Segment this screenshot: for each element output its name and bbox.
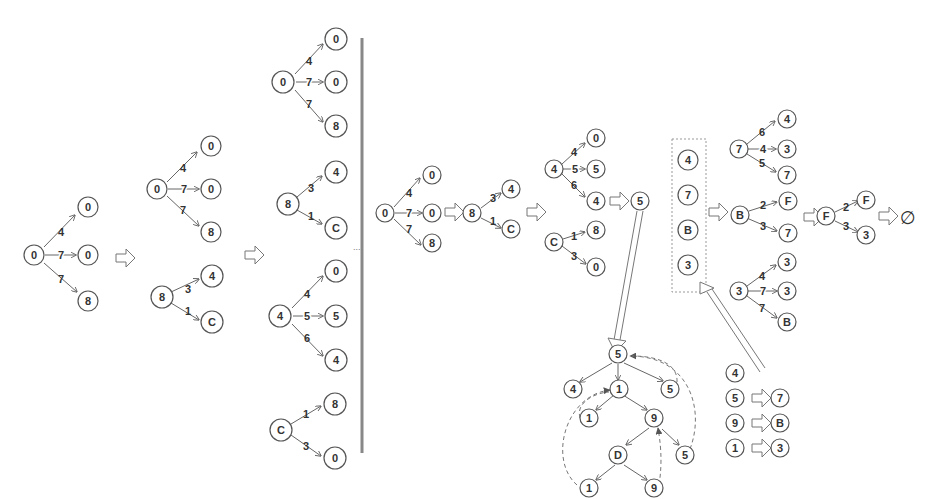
svg-text:7: 7 [736, 143, 742, 155]
svg-text:3: 3 [685, 259, 691, 271]
svg-text:8: 8 [429, 237, 435, 249]
node: 0 [24, 245, 44, 265]
svg-text:3: 3 [760, 220, 766, 232]
group-tree-4: 4 5 6 4 0 5 4 [545, 129, 605, 210]
edge-label: 3 [571, 250, 577, 262]
node: 0 [423, 204, 441, 222]
node: 0 [201, 179, 221, 199]
edge-label: 3 [308, 182, 314, 194]
box-node: B [678, 220, 698, 240]
svg-text:C: C [550, 236, 558, 248]
edge-label: 4 [58, 226, 65, 238]
result-node: 5 [631, 192, 649, 210]
svg-text:3: 3 [784, 285, 790, 297]
svg-text:0: 0 [333, 33, 339, 45]
edge-label: 7 [58, 249, 64, 261]
step-arrow-icon [709, 203, 728, 221]
svg-text:7: 7 [760, 285, 766, 297]
edge-label: 7 [406, 207, 412, 219]
edge-label: 4 [306, 55, 313, 67]
node: 8 [151, 286, 173, 308]
step-arrow-icon [245, 246, 264, 264]
node: 8 [324, 393, 346, 415]
node: 8 [78, 291, 98, 311]
node: C [545, 233, 563, 251]
svg-text:3: 3 [784, 256, 790, 268]
step-arrow-icon [116, 249, 135, 267]
node: 0 [325, 28, 347, 50]
svg-text:7: 7 [759, 302, 765, 314]
svg-text:0: 0 [154, 183, 160, 195]
svg-text:D: D [614, 449, 622, 461]
box-node: 7 [678, 185, 698, 205]
svg-text:4: 4 [277, 310, 284, 322]
svg-text:1: 1 [616, 383, 622, 395]
step-arrow-icon [610, 192, 629, 210]
edge-label: 6 [571, 179, 577, 191]
edge-label: 7 [58, 273, 64, 285]
svg-text:0: 0 [593, 261, 599, 273]
svg-text:7: 7 [785, 227, 791, 239]
edge-label: 4 [571, 146, 578, 158]
tree-step3-d: 1 3 C 8 0 [270, 393, 346, 469]
node: 4 [545, 160, 563, 178]
node: 0 [587, 258, 605, 276]
svg-text:4: 4 [333, 166, 340, 178]
svg-text:0: 0 [208, 140, 214, 152]
svg-text:C: C [208, 316, 216, 328]
node: C [325, 217, 347, 239]
mapping: 4 5 7 9 B 1 3 [726, 364, 789, 457]
node: 0 [325, 71, 347, 93]
svg-text:5: 5 [333, 310, 339, 322]
svg-text:4: 4 [685, 154, 692, 166]
node: 4 [325, 161, 347, 183]
svg-text:4: 4 [732, 367, 739, 379]
svg-text:F: F [823, 210, 830, 222]
svg-text:8: 8 [333, 120, 339, 132]
node: 4 [325, 349, 347, 371]
node: 0 [325, 260, 347, 282]
svg-text:4: 4 [333, 354, 340, 366]
svg-text:8: 8 [208, 226, 214, 238]
right-tree-3: 4 7 7 3 3 3 B [730, 253, 796, 331]
edge-label: 1 [490, 215, 496, 227]
svg-text:8: 8 [593, 224, 599, 236]
svg-text:4: 4 [551, 163, 558, 175]
svg-text:6: 6 [759, 126, 765, 138]
svg-text:0: 0 [85, 249, 91, 261]
svg-text:1: 1 [732, 442, 738, 454]
svg-text:0: 0 [333, 76, 339, 88]
svg-text:3: 3 [777, 442, 783, 454]
node: 4 [502, 180, 520, 198]
svg-text:B: B [783, 316, 791, 328]
node: 4 [201, 265, 223, 287]
svg-text:3: 3 [843, 220, 849, 232]
svg-text:C: C [277, 424, 285, 436]
edge-label: 5 [304, 310, 310, 322]
svg-text:5: 5 [593, 163, 599, 175]
edge-label: 7 [180, 204, 186, 216]
svg-text:2: 2 [760, 199, 766, 211]
node: 0 [423, 166, 441, 184]
edge-label: 3 [303, 440, 309, 452]
node: 0 [587, 129, 605, 147]
node: 0 [324, 447, 346, 469]
node: 8 [325, 115, 347, 137]
edge-label: 1 [185, 305, 191, 317]
svg-text:9: 9 [732, 417, 738, 429]
svg-text:3: 3 [784, 143, 790, 155]
node: 5 [325, 305, 347, 327]
svg-text:4: 4 [508, 183, 515, 195]
svg-text:8: 8 [85, 295, 91, 307]
edge-label: 7 [406, 223, 412, 235]
svg-text:5: 5 [732, 392, 738, 404]
svg-text:5: 5 [615, 348, 621, 360]
svg-text:8: 8 [469, 207, 475, 219]
double-arrow [608, 211, 643, 352]
node: 8 [201, 222, 221, 242]
node: 8 [423, 234, 441, 252]
edge-label: 1 [571, 230, 577, 242]
svg-text:0: 0 [208, 183, 214, 195]
edge-label: 6 [304, 332, 310, 344]
svg-text:5: 5 [637, 195, 643, 207]
